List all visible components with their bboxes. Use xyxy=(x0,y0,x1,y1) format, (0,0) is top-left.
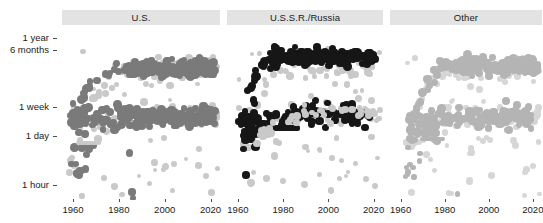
scatter-point xyxy=(184,157,189,162)
y-tick-label: 1 week xyxy=(19,102,49,112)
scatter-point xyxy=(270,119,276,125)
scatter-point xyxy=(418,88,427,97)
scatter-point xyxy=(263,110,270,117)
scatter-point xyxy=(428,130,435,137)
scatter-point xyxy=(166,82,173,89)
scatter-point xyxy=(242,108,248,114)
scatter-point xyxy=(405,145,410,150)
scatter-point xyxy=(481,99,486,104)
scatter-point xyxy=(435,110,441,116)
scatter-point xyxy=(160,121,166,127)
scatter-point xyxy=(489,114,497,122)
scatter-point xyxy=(273,138,280,145)
scatter-point xyxy=(469,73,475,79)
scatter-point xyxy=(102,90,109,97)
scatter-point xyxy=(195,82,200,87)
facet-title: Other xyxy=(454,12,478,23)
scatter-point xyxy=(81,130,89,138)
scatter-point xyxy=(415,120,423,128)
scatter-point xyxy=(161,135,167,141)
scatter-point xyxy=(511,63,519,71)
scatter-point xyxy=(357,51,364,58)
facet-panel: U.S. xyxy=(62,10,220,200)
scatter-point xyxy=(366,54,375,63)
scatter-point xyxy=(148,138,153,143)
scatter-point xyxy=(162,163,169,170)
scatter-point xyxy=(332,81,338,87)
scatter-point xyxy=(531,79,536,84)
scatter-point xyxy=(442,129,449,136)
scatter-point xyxy=(201,69,210,78)
x-tick-mark xyxy=(165,199,166,202)
scatter-point xyxy=(303,75,309,81)
scatter-point xyxy=(132,122,141,131)
scatter-point xyxy=(287,48,295,56)
scatter-point xyxy=(329,155,335,161)
scatter-point xyxy=(85,145,93,153)
scatter-point xyxy=(344,81,351,88)
scatter-point xyxy=(451,98,455,102)
scatter-point xyxy=(466,177,473,184)
scatter-point xyxy=(170,188,175,193)
x-tick-mark xyxy=(211,199,212,202)
scatter-point xyxy=(355,95,362,102)
scatter-point xyxy=(368,97,375,104)
scatter-point xyxy=(467,83,474,90)
scatter-point xyxy=(80,49,86,55)
scatter-point xyxy=(357,105,362,110)
scatter-point xyxy=(329,105,336,112)
scatter-point xyxy=(215,166,220,171)
scatter-point xyxy=(361,124,368,131)
scatter-point xyxy=(456,75,461,80)
scatter-point xyxy=(376,116,382,122)
scatter-point xyxy=(150,109,158,117)
scatter-point xyxy=(122,116,130,124)
scatter-point xyxy=(528,125,534,131)
x-tick-label: 2020 xyxy=(522,204,543,215)
scatter-point xyxy=(89,122,95,128)
scatter-point xyxy=(447,121,453,127)
scatter-point xyxy=(122,92,127,97)
scatter-point xyxy=(168,98,172,102)
facet-strip: U.S.S.R./Russia xyxy=(227,10,383,25)
scatter-point xyxy=(403,174,408,179)
x-tick-label: 1960 xyxy=(227,204,248,215)
scatter-point xyxy=(339,107,346,114)
scatter-point xyxy=(185,65,192,72)
x-axis: 1960198020002020 xyxy=(62,199,220,223)
scatter-point xyxy=(263,81,270,88)
scatter-point xyxy=(472,61,479,68)
scatter-point xyxy=(502,79,508,85)
scatter-point xyxy=(377,107,383,113)
scatter-point xyxy=(432,168,437,173)
scatter-point xyxy=(285,119,291,125)
scatter-point xyxy=(272,110,281,119)
scatter-point xyxy=(147,181,152,186)
scatter-point xyxy=(250,109,259,118)
scatter-point xyxy=(85,84,93,92)
scatter-point xyxy=(316,67,323,74)
x-tick-mark xyxy=(328,199,329,202)
scatter-point xyxy=(334,69,339,74)
y-tick-label: 1 hour xyxy=(22,180,49,190)
scatter-point xyxy=(428,157,433,162)
scatter-point xyxy=(488,172,495,179)
scatter-point xyxy=(308,120,315,127)
x-tick-label: 2020 xyxy=(363,204,384,215)
x-tick-mark xyxy=(401,199,402,202)
scatter-point xyxy=(516,115,524,123)
figure-root: 1 year6 months1 week1 day1 hour U.S.U.S.… xyxy=(0,0,543,223)
scatter-point xyxy=(353,89,358,94)
facet-panel: U.S.S.R./Russia xyxy=(227,10,383,200)
scatter-point xyxy=(513,101,521,109)
facet-panel: Other xyxy=(390,10,542,200)
x-tick-label: 2000 xyxy=(154,204,175,215)
scatter-point xyxy=(250,52,254,56)
y-axis: 1 year6 months1 week1 day1 hour xyxy=(0,0,57,223)
scatter-point xyxy=(346,170,350,174)
x-tick-mark xyxy=(489,199,490,202)
scatter-point xyxy=(476,86,483,93)
x-tick-label: 1960 xyxy=(62,204,83,215)
x-tick-label: 2000 xyxy=(318,204,339,215)
scatter-point xyxy=(208,189,215,196)
